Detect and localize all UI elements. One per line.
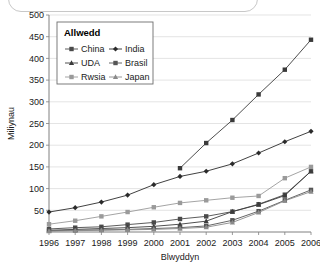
data-point <box>204 141 208 145</box>
y-tick-label-200: 200 <box>29 140 44 150</box>
y-tick-label-50: 50 <box>34 206 44 216</box>
legend-label: Brasil <box>125 58 148 68</box>
y-tick-label-450: 450 <box>29 32 44 42</box>
y-tick-label-400: 400 <box>29 54 44 64</box>
x-tick-label-1999: 1999 <box>118 238 138 248</box>
legend-label: UDA <box>81 58 100 68</box>
data-point <box>256 92 260 96</box>
x-tick-label-2004: 2004 <box>249 238 269 248</box>
x-axis-title: Blwyddyn <box>161 252 200 262</box>
y-tick-label-350: 350 <box>29 75 44 85</box>
legend-label: China <box>81 44 105 54</box>
data-point <box>69 75 73 79</box>
y-tick-label-300: 300 <box>29 97 44 107</box>
data-point <box>178 217 182 221</box>
data-point <box>230 118 234 122</box>
data-point <box>256 194 260 198</box>
line-chart: 5010015020025030035040045050019961997199… <box>0 0 320 264</box>
y-tick-label-250: 250 <box>29 119 44 129</box>
data-point <box>152 205 156 209</box>
x-tick-label-2006: 2006 <box>301 238 320 248</box>
data-point <box>230 196 234 200</box>
data-point <box>309 165 313 169</box>
data-point <box>204 198 208 202</box>
legend-title: Allwedd <box>64 27 101 38</box>
data-point <box>73 219 77 223</box>
data-point <box>178 201 182 205</box>
legend-label: Japan <box>125 72 150 82</box>
x-tick-label-2001: 2001 <box>170 238 190 248</box>
x-tick-label-1998: 1998 <box>91 238 111 248</box>
data-point <box>283 176 287 180</box>
data-point <box>47 222 51 226</box>
x-tick-label-2002: 2002 <box>196 238 216 248</box>
data-point <box>125 210 129 214</box>
y-tick-label-500: 500 <box>29 10 44 20</box>
legend-label: India <box>125 44 145 54</box>
legend-label: Rwsia <box>81 72 106 82</box>
data-point <box>178 166 182 170</box>
data-point <box>204 214 208 218</box>
data-point <box>69 47 73 51</box>
data-point <box>113 61 117 65</box>
x-tick-label-2003: 2003 <box>222 238 242 248</box>
data-point <box>309 38 313 42</box>
y-tick-label-150: 150 <box>29 162 44 172</box>
data-point <box>99 214 103 218</box>
x-tick-label-2000: 2000 <box>144 238 164 248</box>
x-tick-label-1996: 1996 <box>39 238 59 248</box>
data-point <box>283 67 287 71</box>
x-tick-label-1997: 1997 <box>65 238 85 248</box>
y-tick-label-100: 100 <box>29 184 44 194</box>
x-tick-label-2005: 2005 <box>275 238 295 248</box>
y-axis-title: Miliynau <box>6 107 16 140</box>
chart-svg: 5010015020025030035040045050019961997199… <box>0 0 320 264</box>
